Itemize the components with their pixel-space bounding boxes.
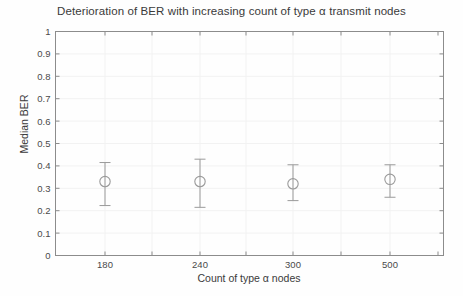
- y-tick-label: 0.2: [37, 205, 50, 216]
- x-tick-label: 300: [285, 259, 301, 270]
- y-tick-label: 0.6: [37, 116, 50, 127]
- y-tick-label: 0.5: [37, 138, 50, 149]
- plot-area: 00.10.20.30.40.50.60.70.80.91 1802403005…: [0, 0, 463, 296]
- y-tick-label: 0.7: [37, 93, 50, 104]
- gridlines: [56, 32, 444, 256]
- y-axis-tick-labels: 00.10.20.30.40.50.60.70.80.91: [37, 26, 50, 261]
- x-axis-tick-labels: 180240300500: [97, 259, 398, 270]
- y-tick-label: 0.9: [37, 48, 50, 59]
- x-tick-label: 180: [97, 259, 113, 270]
- y-tick-label: 1: [45, 26, 50, 37]
- errorbar-point: [195, 159, 206, 207]
- y-tick-label: 0.4: [37, 160, 50, 171]
- y-tick-label: 0.1: [37, 228, 50, 239]
- x-tick-label: 500: [382, 259, 398, 270]
- y-tick-label: 0: [45, 250, 50, 261]
- x-tick-label: 240: [192, 259, 208, 270]
- errorbar-point: [385, 165, 396, 197]
- y-tick-label: 0.3: [37, 183, 50, 194]
- errorbar-point: [100, 163, 111, 206]
- y-tick-label: 0.8: [37, 71, 50, 82]
- y-axis-label: Median BER: [18, 74, 30, 174]
- errorbar-point: [288, 165, 299, 201]
- chart-figure: Deterioration of BER with increasing cou…: [0, 0, 463, 296]
- x-axis-label: Count of type α nodes: [55, 272, 443, 284]
- data-series-errorbars: [100, 159, 396, 207]
